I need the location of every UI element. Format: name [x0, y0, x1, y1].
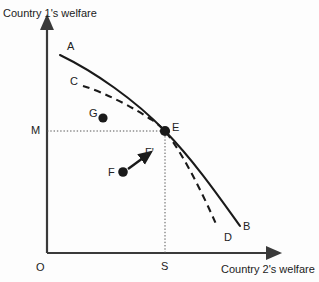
point-label-f: F: [108, 167, 115, 178]
point-label-f-prime: F': [145, 147, 154, 158]
solid-frontier-curve-ab: [60, 55, 240, 226]
x-tick-label-s: S: [161, 261, 168, 272]
y-axis-title: Country 1's welfare: [3, 8, 97, 19]
curve-label-d: D: [224, 232, 232, 243]
y-tick-label-m: M: [31, 125, 40, 136]
curve-label-c: C: [70, 76, 78, 87]
curve-label-a: A: [67, 41, 74, 52]
curve-label-b: B: [243, 221, 250, 232]
welfare-frontier-figure: Country 1's welfare Country 2's welfare …: [0, 0, 319, 282]
point-g-marker: [98, 113, 107, 122]
point-label-g: G: [89, 108, 98, 119]
figure-canvas: [0, 0, 319, 282]
origin-label: O: [36, 262, 45, 273]
x-axis-title: Country 2's welfare: [221, 264, 315, 275]
arrow-f-to-f-prime: [128, 158, 143, 169]
point-f-marker: [118, 167, 128, 177]
point-e-marker: [160, 126, 170, 136]
point-label-e: E: [172, 122, 179, 133]
